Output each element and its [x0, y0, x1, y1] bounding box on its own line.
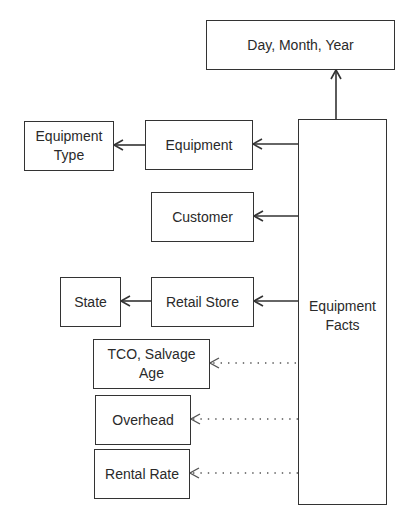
retail-store-label: Retail Store [166, 293, 239, 312]
date-dimension-box: Day, Month, Year [206, 20, 395, 70]
equipment-label: Equipment [166, 136, 233, 155]
overhead-label: Overhead [112, 411, 173, 430]
retail-store-box: Retail Store [151, 277, 254, 327]
arrowhead-icon [190, 468, 199, 478]
date-dimension-label: Day, Month, Year [247, 36, 353, 55]
tco-salvage-age-box: TCO, Salvage Age [93, 339, 210, 389]
customer-label: Customer [172, 208, 233, 227]
equipment-type-box: Equipment Type [24, 121, 114, 171]
state-label: State [74, 293, 107, 312]
equipment-box: Equipment [145, 120, 253, 170]
overhead-box: Overhead [95, 395, 191, 445]
equipment-facts-label: Equipment Facts [309, 297, 376, 335]
customer-box: Customer [151, 192, 254, 242]
equipment-type-label: Equipment Type [36, 127, 103, 165]
rental-rate-label: Rental Rate [105, 465, 179, 484]
arrowhead-icon [191, 414, 200, 424]
state-box: State [60, 277, 121, 327]
equipment-facts-box: Equipment Facts [298, 119, 387, 505]
rental-rate-box: Rental Rate [94, 449, 190, 499]
tco-salvage-age-label: TCO, Salvage Age [108, 345, 196, 383]
